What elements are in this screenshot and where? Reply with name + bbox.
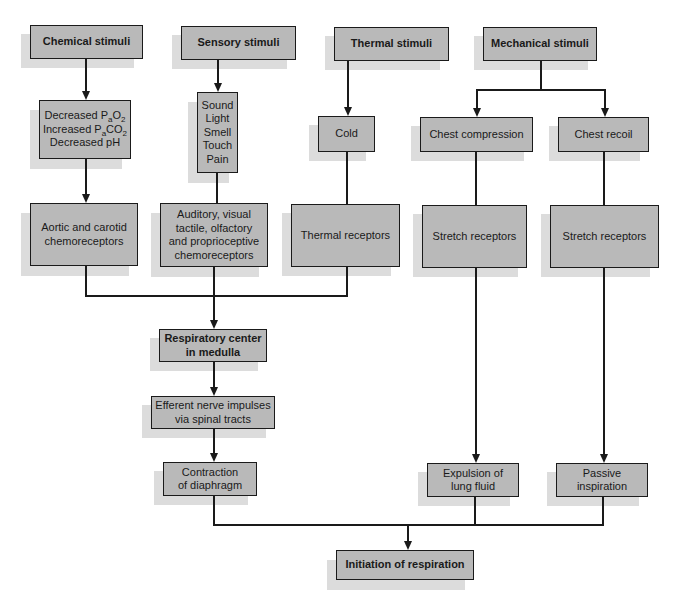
connector-line: [475, 268, 477, 455]
connector-line: [85, 266, 87, 296]
node-cold: Cold: [318, 116, 375, 152]
node-label-line: in medulla: [164, 346, 261, 360]
node-label: Stretch receptors: [433, 230, 517, 244]
connector-line: [213, 428, 215, 454]
node-label: Chemical stimuli: [43, 35, 130, 49]
node-chemical-stimuli: Chemical stimuli: [30, 25, 143, 59]
node-aortic-carotid: Aortic and carotid chemoreceptors: [30, 203, 138, 266]
node-label-line: Decreased PaO2: [43, 109, 127, 123]
connector-line: [476, 89, 478, 109]
node-sensory-list: Sound Light Smell Touch Pain: [197, 92, 238, 173]
connector-line: [346, 152, 348, 204]
node-label-line: Respiratory center: [164, 332, 261, 346]
arrow-head-icon: [404, 541, 412, 550]
connector-line: [347, 61, 349, 108]
arrow-head-icon: [210, 453, 218, 462]
connector-line: [540, 61, 542, 90]
connector-line: [407, 524, 409, 542]
node-sensory-stimuli: Sensory stimuli: [181, 26, 296, 60]
arrow-head-icon: [344, 107, 352, 116]
connector-line: [604, 89, 606, 109]
node-label-line: Touch: [202, 139, 234, 153]
arrow-head-icon: [214, 83, 222, 92]
connector-line: [85, 59, 87, 92]
node-stretch-receptors-2: Stretch receptors: [550, 205, 659, 268]
node-label: Thermal stimuli: [351, 37, 432, 51]
arrow-head-icon: [473, 108, 481, 117]
node-initiation-respiration: Initiation of respiration: [336, 550, 474, 580]
node-label-line: lung fluid: [443, 480, 503, 494]
connector-line: [474, 497, 476, 525]
node-label-line: chemoreceptors: [41, 235, 127, 249]
arrow-head-icon: [82, 194, 90, 203]
connector-line: [603, 268, 605, 455]
node-label-line: Efferent nerve impulses: [155, 399, 270, 413]
node-label-line: Expulsion of: [443, 467, 503, 481]
node-respiratory-center: Respiratory center in medulla: [159, 329, 267, 362]
node-label-line: Smell: [202, 126, 234, 140]
node-label-line: and proprioceptive: [169, 235, 260, 249]
connector-line: [213, 362, 215, 388]
connector-line: [476, 89, 606, 91]
node-chemical-changes: Decreased PaO2 Increased PaCO2 Decreased…: [39, 100, 131, 159]
connector-line: [603, 152, 605, 205]
connector-line: [346, 267, 348, 296]
node-label-line: tactile, olfactory: [169, 222, 260, 236]
connector-line: [213, 524, 604, 526]
node-label-line: Decreased pH: [43, 136, 127, 150]
node-label-line: Contraction: [178, 466, 242, 480]
arrow-head-icon: [601, 108, 609, 117]
node-passive-inspiration: Passive inspiration: [556, 463, 648, 497]
connector-line: [602, 497, 604, 525]
node-label: Cold: [335, 127, 358, 141]
connector-line: [217, 59, 219, 84]
node-label-line: Aortic and carotid: [41, 221, 127, 235]
node-label: Stretch receptors: [563, 230, 647, 244]
connector-line: [213, 267, 215, 321]
arrow-head-icon: [82, 91, 90, 100]
node-label-line: chemoreceptors: [169, 249, 260, 263]
node-label-line: of diaphragm: [178, 479, 242, 493]
connector-line: [85, 295, 348, 297]
connector-line: [213, 495, 215, 525]
arrow-head-icon: [472, 454, 480, 463]
node-chest-recoil: Chest recoil: [558, 117, 649, 152]
node-contraction-diaphragm: Contraction of diaphragm: [163, 462, 257, 496]
node-label-line: Increased PaCO2: [43, 123, 127, 137]
arrow-head-icon: [210, 320, 218, 329]
node-label: Sensory stimuli: [198, 36, 280, 50]
node-label: Chest recoil: [574, 128, 632, 142]
node-label-line: Sound: [202, 99, 234, 113]
node-label-line: inspiration: [577, 480, 627, 494]
node-chest-compression: Chest compression: [420, 117, 533, 152]
node-label-line: Light: [202, 112, 234, 126]
node-thermal-receptors: Thermal receptors: [291, 204, 400, 267]
connector-line: [85, 159, 87, 195]
arrow-head-icon: [210, 387, 218, 396]
node-thermal-stimuli: Thermal stimuli: [334, 27, 449, 61]
node-label-line: via spinal tracts: [155, 413, 270, 427]
node-auditory-visual: Auditory, visual tactile, olfactory and …: [160, 203, 268, 267]
node-efferent-impulses: Efferent nerve impulses via spinal tract…: [151, 396, 275, 429]
connector-line: [475, 152, 477, 205]
node-label-line: Passive: [577, 467, 627, 481]
node-label: Thermal receptors: [301, 229, 390, 243]
node-label-line: Pain: [202, 153, 234, 167]
arrow-head-icon: [600, 454, 608, 463]
node-expulsion-fluid: Expulsion of lung fluid: [427, 463, 519, 497]
node-label: Chest compression: [429, 128, 523, 142]
node-mechanical-stimuli: Mechanical stimuli: [483, 27, 597, 61]
node-label: Mechanical stimuli: [491, 37, 589, 51]
node-label-line: Auditory, visual: [169, 208, 260, 222]
node-stretch-receptors-1: Stretch receptors: [422, 205, 527, 268]
connector-line: [216, 173, 218, 203]
node-label: Initiation of respiration: [345, 558, 464, 572]
